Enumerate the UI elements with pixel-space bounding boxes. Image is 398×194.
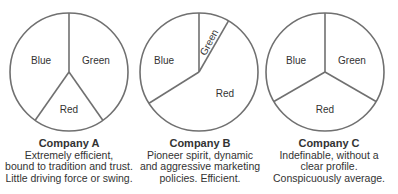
- caption-c-line2: clear profile.: [259, 161, 398, 173]
- caption-company-a: Company A Extremely efficient, bound to …: [0, 138, 139, 184]
- pie-c-label-red: Red: [316, 104, 334, 115]
- caption-b-line2: and aggressive marketing: [130, 161, 270, 173]
- pie-charts: Blue Green Red Blue Green Red Blue Green…: [0, 0, 398, 140]
- caption-a-title: Company A: [0, 138, 139, 150]
- caption-company-b: Company B Pioneer spirit, dynamic and ag…: [130, 138, 270, 184]
- pie-c-label-green: Green: [338, 55, 366, 66]
- pie-c-label-blue: Blue: [286, 55, 306, 66]
- pie-b-divider-left: [149, 72, 199, 103]
- caption-b-title: Company B: [130, 138, 270, 150]
- pie-c-divider-left: [274, 72, 325, 102]
- pie-c-divider-right: [325, 72, 376, 102]
- pie-company-b: [140, 13, 258, 131]
- caption-c-title: Company C: [259, 138, 398, 150]
- pie-b-label-blue: Blue: [154, 55, 174, 66]
- pie-b-label-red: Red: [216, 88, 234, 99]
- caption-b-line3: policies. Efficient.: [130, 173, 270, 185]
- caption-company-c: Company C Indefinable, without a clear p…: [259, 138, 398, 184]
- caption-a-line2: bound to tradition and trust.: [0, 161, 139, 173]
- pie-a-label-green: Green: [82, 55, 110, 66]
- pie-a-label-blue: Blue: [31, 55, 51, 66]
- caption-a-line3: Little driving force or swing.: [0, 173, 139, 185]
- pie-a-label-red: Red: [60, 104, 78, 115]
- caption-c-line3: Conspicuously average.: [259, 173, 398, 185]
